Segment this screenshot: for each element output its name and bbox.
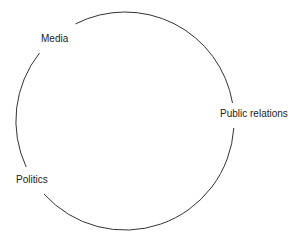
arc-public-relations-to-politics: [44, 128, 234, 230]
arc-politics-to-media: [16, 53, 40, 167]
node-label-politics: Politics: [16, 174, 48, 186]
node-label-media: Media: [41, 33, 68, 45]
node-label-public-relations: Public relations: [220, 108, 288, 120]
arc-media-to-public-relations: [76, 12, 233, 103]
